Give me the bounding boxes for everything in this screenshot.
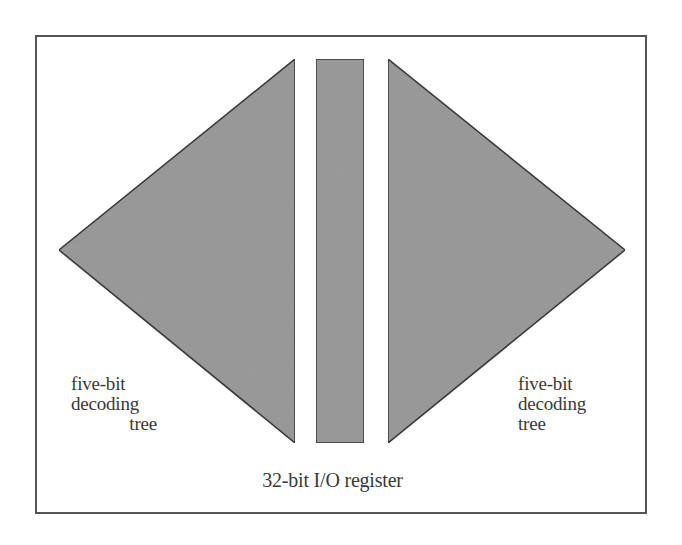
left-tree-label-line3: tree	[71, 414, 157, 434]
right-tree-label: five-bit decoding tree	[518, 374, 608, 434]
left-tree-label-line2: decoding	[71, 394, 157, 414]
right-tree-label-line1: five-bit	[518, 374, 608, 394]
decoding-tree-diagram	[0, 0, 682, 545]
left-tree-label: five-bit decoding tree	[71, 374, 157, 434]
right-tree-label-line3: tree	[518, 414, 608, 434]
right-tree-label-line2: decoding	[518, 394, 608, 414]
left-tree-label-line1: five-bit	[71, 374, 157, 394]
io-register-bar	[316, 59, 364, 443]
register-label: 32-bit I/O register	[200, 470, 465, 490]
